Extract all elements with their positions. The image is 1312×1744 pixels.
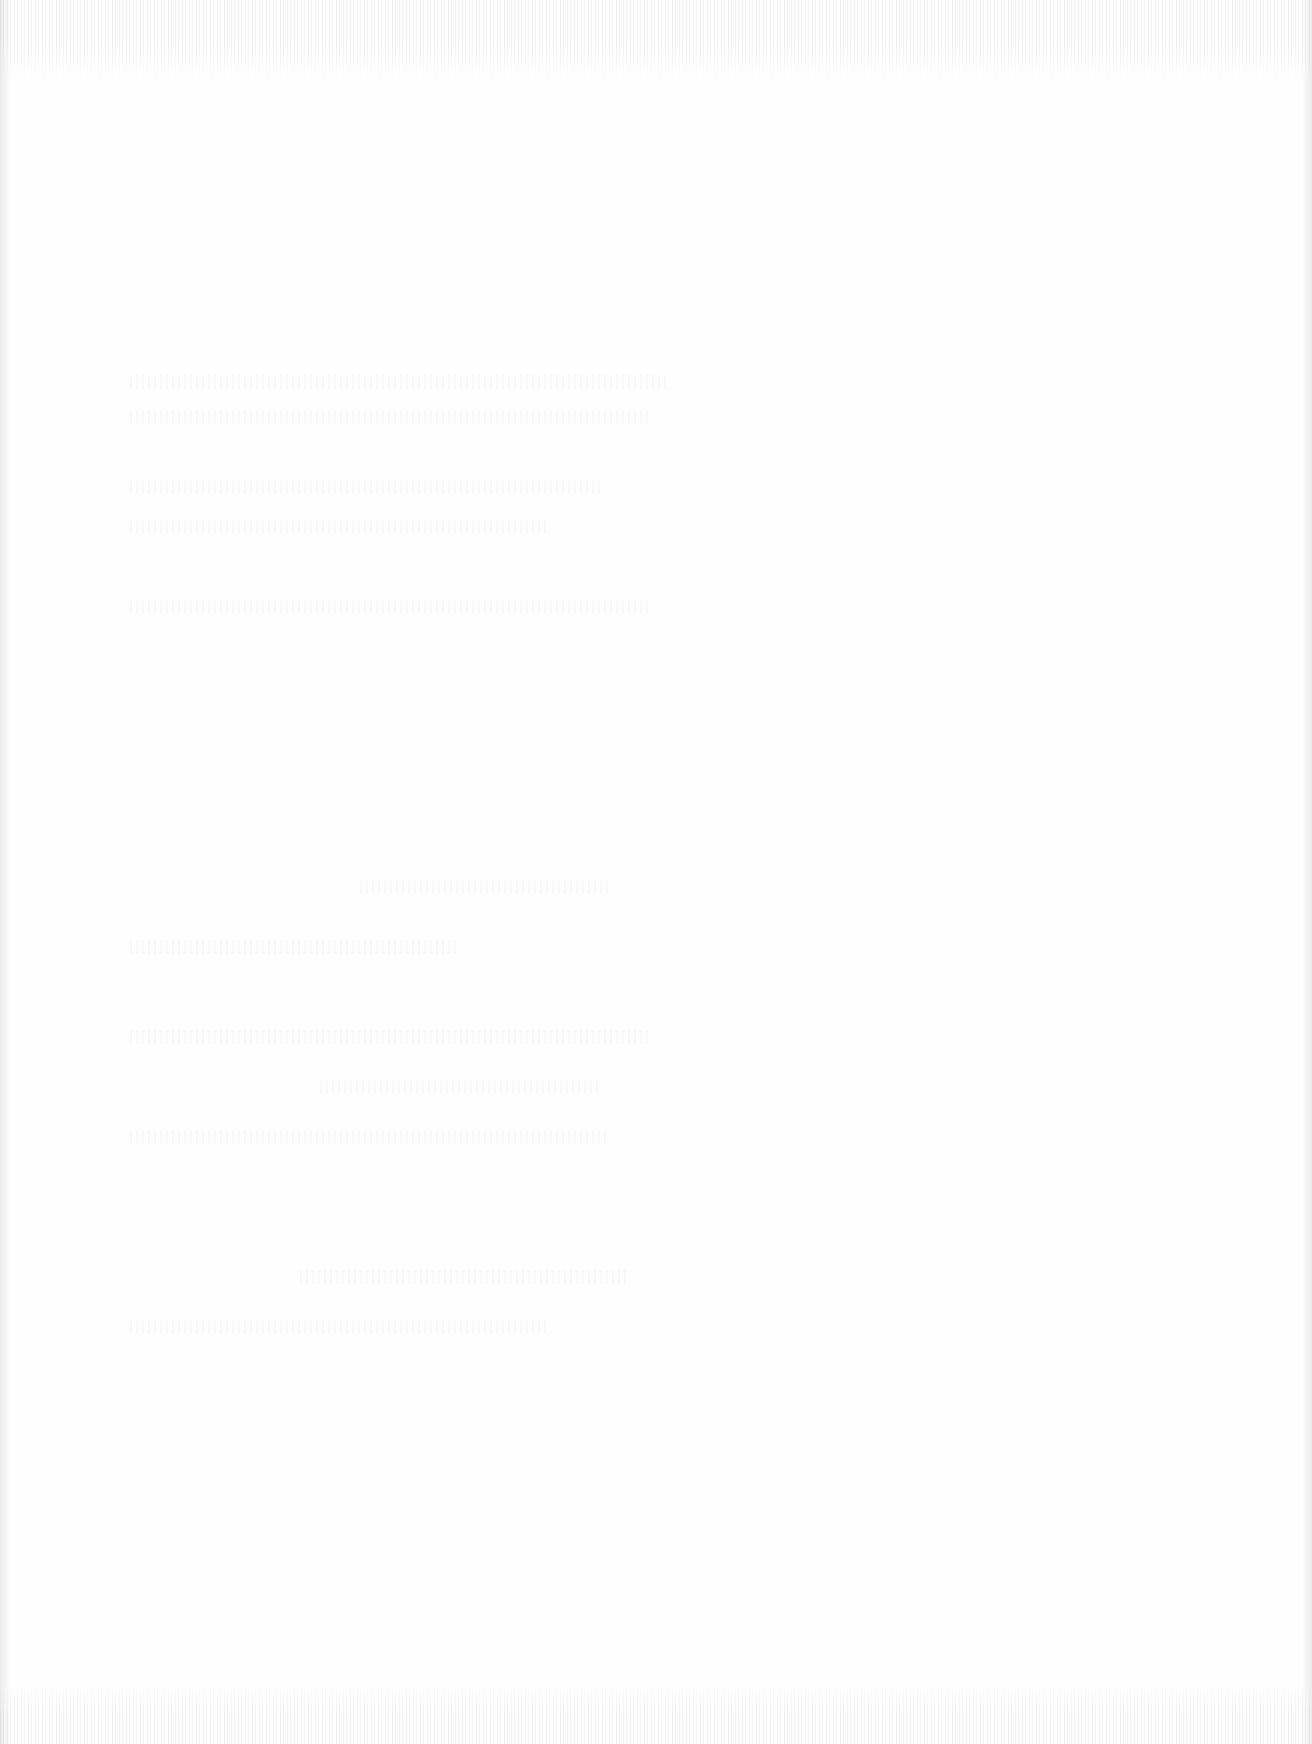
ghost-line — [130, 375, 670, 389]
ghost-line — [130, 480, 600, 494]
scan-noise-bottom-edge — [0, 1684, 1312, 1744]
ghost-line — [130, 940, 460, 954]
scan-shadow-right-edge — [1302, 0, 1312, 1744]
ghost-line — [130, 1130, 610, 1144]
ghost-line — [360, 880, 610, 894]
ghost-line — [130, 1030, 650, 1044]
ghost-line — [130, 600, 650, 614]
scan-shadow-left-edge — [0, 0, 10, 1744]
blank-scanned-page — [0, 0, 1312, 1744]
ghost-line — [130, 410, 650, 424]
ghost-line — [300, 1270, 630, 1284]
ghost-line — [130, 520, 550, 534]
scan-noise-top-edge — [0, 0, 1312, 80]
ghost-line — [130, 1320, 550, 1334]
ghost-line — [320, 1080, 600, 1094]
